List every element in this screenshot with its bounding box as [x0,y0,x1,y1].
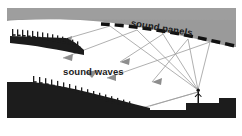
acoustic-diagram-figure: sound panels sound waves [0,0,242,136]
orchestra-pit-step [150,110,190,118]
ceiling-shading [7,8,236,20]
sound-waves-label: sound waves [63,66,124,77]
